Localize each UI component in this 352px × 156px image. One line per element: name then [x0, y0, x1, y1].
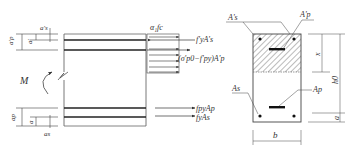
force-label-bottom-prestress: fpyAp: [196, 104, 215, 113]
dim-label-a-prime-p: a'p: [7, 36, 15, 45]
top-tendon-icon: [269, 48, 285, 50]
force-label-concrete: α₁fc: [150, 23, 163, 32]
bottom-cover-dimensions: [16, 108, 58, 128]
dim-label-a-prime: a': [26, 39, 34, 45]
label-bottom-prestress-area: Ap: [312, 85, 322, 94]
dim-label-b: b: [273, 130, 278, 140]
moment-label: M: [19, 75, 29, 86]
bottom-steel-bar-icon: [292, 114, 295, 117]
bottom-steel-bar-icon: [258, 114, 261, 117]
bottom-tendon-icon: [269, 106, 285, 108]
dim-label-as: as: [44, 130, 51, 138]
dim-label-a-cover: a: [332, 116, 341, 120]
dim-label-a: a: [27, 120, 35, 124]
dim-label-h0: h0: [331, 76, 340, 84]
break-line-icon: [58, 72, 68, 80]
force-label-bottom-steel: fyAs: [196, 113, 210, 122]
dim-label-x: x: [313, 52, 322, 57]
top-cover-dimensions: [16, 28, 58, 50]
force-label-top-prestress: (σ'p0−f'py)A'p: [178, 54, 224, 63]
beam-elevation: [58, 34, 146, 126]
beam-section-diagram: a'p a' a's ap a as M α₁fc f'yA's (σ'p0−f…: [0, 0, 352, 156]
top-steel-bar-icon: [292, 37, 295, 40]
moment-arrow-icon: [43, 72, 52, 94]
cross-section: [253, 34, 301, 122]
label-top-prestress-area: A'p: [299, 10, 311, 19]
top-steel-bar-icon: [258, 37, 261, 40]
label-bottom-steel-area: As: [231, 84, 240, 93]
dim-label-ap: ap: [9, 114, 17, 122]
label-top-steel-area: A's: [227, 13, 238, 22]
dim-label-a-prime-s: a's: [40, 24, 48, 32]
force-label-top-steel: f'yA's: [196, 35, 213, 44]
